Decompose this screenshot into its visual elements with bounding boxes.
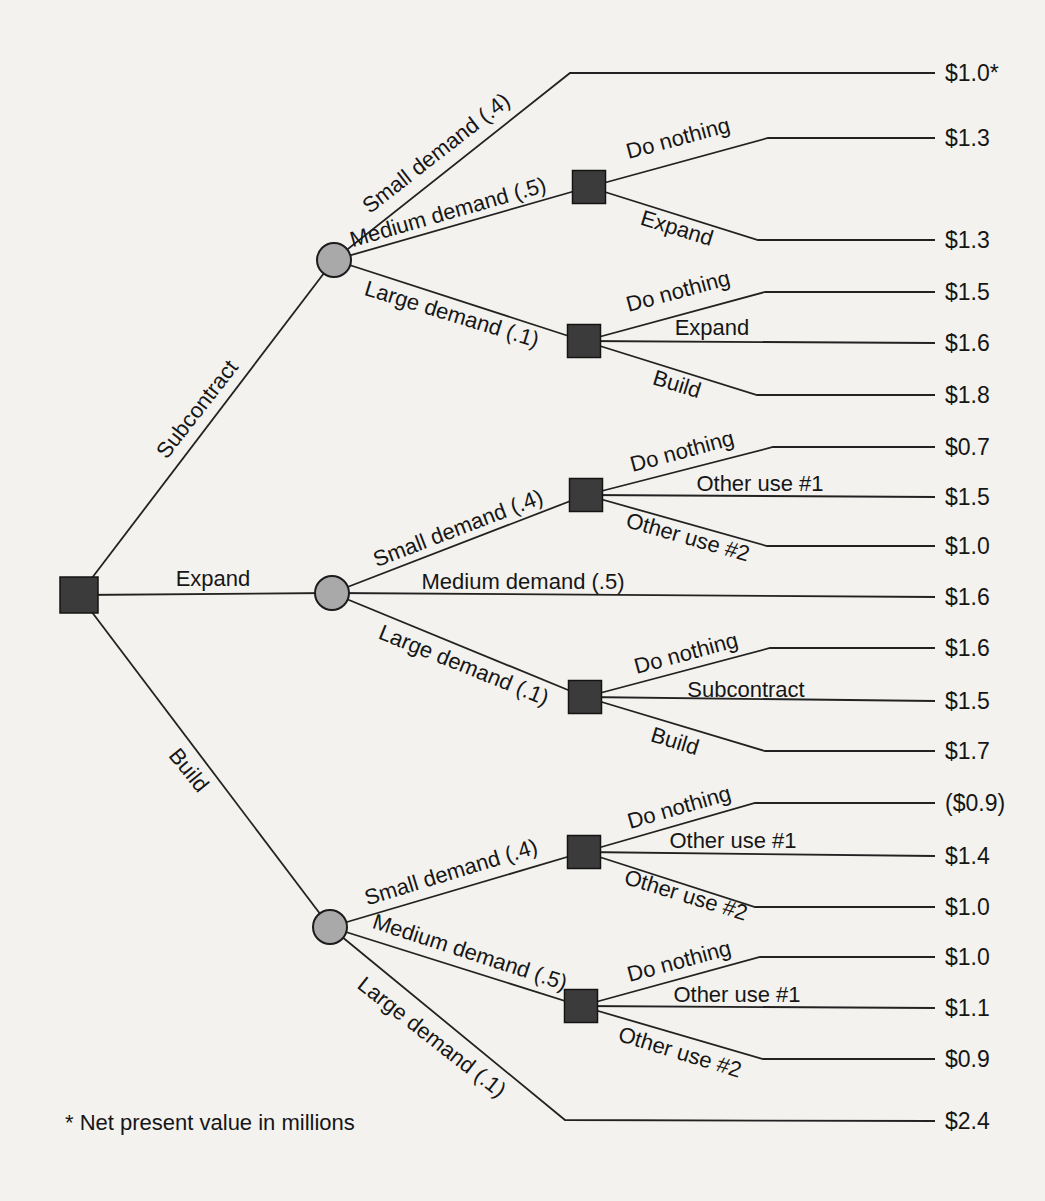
payoff-exp-large-subcontract: $1.5	[945, 688, 990, 714]
branch-line-exp-large-build	[585, 697, 935, 751]
payoff-exp-medium: $1.6	[945, 584, 990, 610]
payoff-sub-small: $1.0*	[945, 60, 999, 86]
footnote: * Net present value in millions	[65, 1110, 355, 1135]
branch-line-sub-large-expand	[584, 341, 935, 343]
payoff-sub-large-build: $1.8	[945, 382, 990, 408]
payoff-bld-large: $2.4	[945, 1108, 990, 1134]
payoff-bld-small-other-use-2: $1.0	[945, 894, 990, 920]
root-decision-node	[60, 577, 98, 613]
decision-node-exp-large	[569, 681, 602, 714]
branch-line-expand-large-demand	[332, 593, 585, 697]
branch-line-build	[79, 595, 330, 927]
decision-node-bld-small	[568, 836, 601, 869]
decision-node-bld-medium	[565, 990, 598, 1023]
branch-label-bld-small-other-use-1: Other use #1	[669, 828, 796, 853]
decision-node-sub-large	[568, 325, 601, 358]
payoff-exp-small-other-use-2: $1.0	[945, 533, 990, 559]
branch-label-build: Build	[164, 743, 214, 797]
branch-label-exp-medium-demand: Medium demand (.5)	[422, 569, 625, 594]
payoff-bld-small-other-use-1: $1.4	[945, 843, 990, 869]
payoff-bld-medium-other-use-2: $0.9	[945, 1046, 990, 1072]
payoff-exp-small-do-nothing: $0.7	[945, 434, 990, 460]
branch-label-exp-small-demand: Small demand (.4)	[370, 484, 547, 572]
branch-label-subcontract: Subcontract	[151, 355, 243, 463]
payoff-exp-large-build: $1.7	[945, 738, 990, 764]
branch-line-expand-medium-demand	[332, 593, 935, 597]
branch-label-bld-medium-demand: Medium demand (.5)	[370, 909, 571, 996]
branch-label-exp-small-other-use-1: Other use #1	[696, 471, 823, 496]
payoff-values: $1.0* $1.3 $1.3 $1.5 $1.6 $1.8 $0.7 $1.5…	[945, 60, 1005, 1134]
branch-label-exp-large-subcontract: Subcontract	[687, 677, 804, 702]
branch-label-sub-medium-expand: Expand	[638, 205, 717, 251]
branch-label-expand: Expand	[176, 566, 251, 591]
branch-label-exp-large-demand: Large demand (.1)	[375, 620, 552, 711]
payoff-bld-medium-do-nothing: $1.0	[945, 944, 990, 970]
branch-label-bld-medium-other-use-2: Other use #2	[616, 1021, 745, 1082]
payoff-sub-medium-do-nothing: $1.3	[945, 125, 990, 151]
subcontract-section-lines	[334, 73, 935, 395]
branch-line-subcontract	[79, 260, 334, 595]
chance-node-build	[313, 910, 347, 944]
chance-node-subcontract	[317, 243, 351, 277]
branch-label-exp-small-do-nothing: Do nothing	[627, 425, 736, 477]
branch-label-sub-large-build: Build	[650, 365, 704, 403]
branch-label-exp-small-other-use-2: Other use #2	[623, 507, 752, 566]
chance-node-expand	[315, 576, 349, 610]
branch-line-sub-large-build	[584, 341, 935, 395]
branch-label-sub-medium-do-nothing: Do nothing	[623, 112, 732, 164]
branch-label-sub-large-demand: Large demand (.1)	[362, 276, 542, 353]
decision-node-exp-small	[570, 479, 603, 512]
payoff-sub-large-do-nothing: $1.5	[945, 279, 990, 305]
payoff-exp-small-other-use-1: $1.5	[945, 484, 990, 510]
branch-line-sub-medium-expand	[589, 187, 935, 240]
root-branch-lines	[79, 260, 334, 927]
branch-line-bld-small-other-use-1	[584, 852, 935, 856]
payoff-bld-medium-other-use-1: $1.1	[945, 995, 990, 1021]
payoff-sub-medium-expand: $1.3	[945, 227, 990, 253]
branch-label-sub-large-do-nothing: Do nothing	[623, 265, 732, 317]
decision-tree-figure: Subcontract Expand Build Small demand (.…	[0, 0, 1045, 1201]
payoff-bld-small-do-nothing: ($0.9)	[945, 790, 1005, 816]
branch-label-exp-large-build: Build	[648, 722, 702, 760]
payoff-sub-large-expand: $1.6	[945, 330, 990, 356]
decision-node-sub-medium	[573, 171, 606, 204]
branch-label-bld-small-other-use-2: Other use #2	[622, 864, 751, 925]
expand-section-lines	[332, 447, 935, 751]
branch-label-bld-large-demand: Large demand (.1)	[353, 971, 511, 1102]
branch-label-sub-large-expand: Expand	[675, 315, 750, 340]
nodes	[60, 171, 606, 1023]
payoff-exp-large-do-nothing: $1.6	[945, 635, 990, 661]
branch-line-expand	[79, 593, 332, 595]
decision-tree-canvas: Subcontract Expand Build Small demand (.…	[0, 0, 1045, 1201]
branch-label-bld-medium-other-use-1: Other use #1	[673, 982, 800, 1007]
